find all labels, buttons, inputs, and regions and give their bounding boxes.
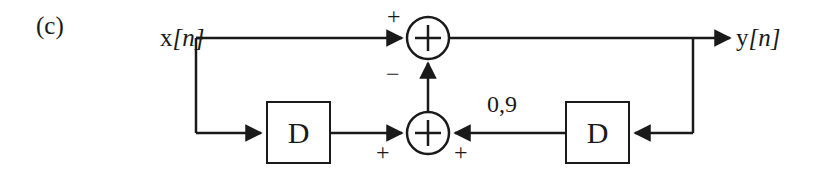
panel-label: (c)	[36, 13, 64, 38]
bottom-adder-plus-sign-right: +	[454, 140, 468, 164]
gain-label: 0,9	[487, 92, 517, 116]
top-adder-plus-sign: +	[387, 4, 401, 28]
block-diagram-figure: (c) x[n] y[n] + − + + 0,9 D D	[0, 0, 822, 177]
output-signal-name: y	[736, 24, 749, 51]
bottom-adder-plus-sign-left: +	[376, 140, 390, 164]
input-signal-label: x[n]	[160, 25, 204, 50]
delay-block-left: D	[266, 101, 331, 164]
delay-block-right: D	[565, 101, 630, 164]
input-signal-index: [n]	[173, 24, 205, 51]
diagram-wiring	[0, 0, 822, 177]
top-adder-minus-sign: −	[386, 62, 400, 86]
output-signal-label: y[n]	[736, 25, 780, 50]
input-signal-name: x	[160, 24, 173, 51]
output-signal-index: [n]	[749, 24, 781, 51]
